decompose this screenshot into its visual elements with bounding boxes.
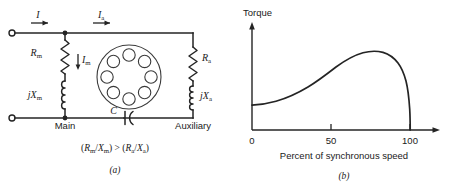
label-inductor-main: jXm — [26, 89, 43, 101]
label-current-Im: Im — [81, 54, 91, 66]
rotor-bar — [145, 71, 157, 83]
figure-root: I Ia Im Rm jXm Ra jX — [0, 0, 450, 185]
current-arrow-Im-head — [76, 65, 81, 71]
current-arrow-Ia — [93, 21, 110, 26]
label-resistor-main: Rm — [30, 47, 43, 59]
current-arrow-I-head — [43, 21, 49, 26]
chart-xticklabel-0: 0 — [249, 135, 254, 146]
chart-x-axis-arrowhead — [433, 127, 441, 133]
rotor-bar — [123, 93, 135, 105]
current-arrow-Ia-head — [105, 21, 111, 26]
label-current-Ia: Ia — [97, 9, 104, 21]
panel-b-chart: Torque 0 50 100 Percent of synchronous s… — [243, 7, 440, 182]
rotor-bar — [138, 55, 150, 67]
chart-x-ticks — [331, 124, 410, 130]
label-inductor-auxiliary: jXa — [198, 90, 212, 102]
chart-torque-curve — [252, 51, 410, 130]
label-current-I: I — [35, 9, 40, 20]
label-capacitor: C — [110, 105, 117, 116]
chart-y-axis-label: Torque — [243, 7, 272, 18]
rotor-outline-icon — [97, 45, 161, 109]
panel-a-circuit: I Ia Im Rm jXm Ra jX — [9, 9, 212, 176]
rotor-bar — [107, 86, 119, 98]
caption-panel-b: (b) — [338, 171, 349, 182]
rotor-bar — [138, 86, 150, 98]
rotor-bar — [123, 49, 135, 61]
label-main-winding: Main — [55, 120, 76, 131]
label-auxiliary-winding: Auxiliary — [175, 120, 211, 131]
figure-canvas: I Ia Im Rm jXm Ra jX — [0, 0, 450, 185]
rotor-bar — [101, 71, 113, 83]
label-resistor-auxiliary: Ra — [201, 52, 211, 64]
caption-panel-a: (a) — [109, 165, 120, 176]
chart-xticklabel-100: 100 — [402, 135, 418, 146]
rotor-bars-group — [101, 49, 157, 105]
inductor-auxiliary-symbol — [190, 86, 193, 110]
inductor-main-symbol — [62, 81, 65, 109]
terminal-bottom-icon — [9, 115, 15, 121]
resistor-main-symbol — [61, 40, 69, 74]
current-arrow-I — [31, 21, 48, 26]
rotor-bar — [107, 55, 119, 67]
current-arrow-Im — [76, 54, 81, 70]
terminal-top-icon — [9, 30, 15, 36]
resistor-auxiliary-symbol — [189, 47, 197, 81]
chart-x-axis-label: Percent of synchronous speed — [280, 150, 408, 161]
chart-y-axis-arrowhead — [249, 22, 255, 30]
chart-xticklabel-50: 50 — [326, 135, 337, 146]
label-condition-inequality: (Rm/Xm) > (Ra/Xa) — [81, 143, 149, 154]
